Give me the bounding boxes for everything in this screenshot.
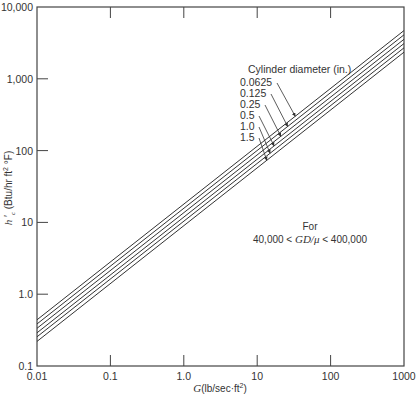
series-line-1_5	[37, 52, 404, 341]
y-tick-label: 100	[15, 145, 33, 157]
legend-arrow	[259, 116, 274, 146]
series-line-0_25	[37, 39, 404, 328]
x-tick-label: 1000	[392, 370, 416, 382]
data-series	[37, 31, 404, 342]
y-axis-title: h ′c (Btu/hr ft2 °F)	[2, 151, 17, 226]
x-axis-ticks: 0.010.11.0101001000	[27, 7, 416, 382]
y-tick-label: 10	[21, 216, 33, 228]
plot-border	[37, 7, 404, 366]
legend-label-1_5: 1.5	[240, 131, 255, 143]
y-tick-label: 10,000	[1, 1, 33, 13]
x-tick-label: 10	[251, 370, 263, 382]
y-tick-label: 1,000	[7, 73, 33, 85]
annotation-for: For	[303, 221, 319, 232]
legend-arrow	[265, 105, 281, 136]
annotation-range: 40,000 < GD/μ < 400,000	[253, 233, 367, 245]
condition-annotation: For 40,000 < GD/μ < 400,000	[253, 221, 367, 245]
legend: Cylinder diameter (in.)0.06250.1250.250.…	[240, 63, 351, 160]
plot-frame	[37, 7, 404, 366]
series-line-1_0	[37, 48, 404, 337]
chart: 0.11.0101001,00010,000 0.010.11.01010010…	[0, 0, 417, 400]
series-line-0_5	[37, 44, 404, 333]
x-tick-label: 1.0	[176, 370, 191, 382]
x-tick-label: 0.01	[27, 370, 48, 382]
legend-title: Cylinder diameter (in.)	[248, 63, 351, 75]
x-tick-label: 0.1	[103, 370, 118, 382]
x-tick-label: 100	[322, 370, 340, 382]
x-axis-title: G(lb/sec·ft2)	[193, 382, 247, 394]
y-tick-label: 1.0	[18, 288, 33, 300]
series-line-0_125	[37, 35, 404, 324]
